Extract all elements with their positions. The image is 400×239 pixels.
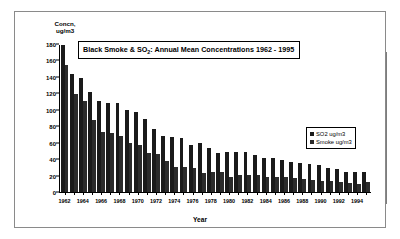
bar-group [252, 45, 261, 192]
legend-item: SO2 ug/m3 [310, 130, 352, 138]
x-axis-tick-label: 1982 [241, 198, 253, 204]
x-axis-tick-mark [183, 192, 184, 195]
bar-smoke [366, 182, 370, 192]
y-axis-tick-mark [56, 126, 59, 127]
x-axis-tick-mark [110, 192, 111, 195]
y-axis-tick-mark [56, 44, 59, 45]
x-axis-tick-mark [302, 192, 303, 195]
y-axis-tick-mark [56, 159, 59, 160]
x-axis-tick-label: 1988 [296, 198, 308, 204]
bar-group [270, 45, 279, 192]
bar-group [325, 45, 334, 192]
bar-smoke [138, 145, 142, 192]
bar-smoke [348, 183, 352, 192]
x-axis-tick-label: 1974 [168, 198, 180, 204]
bar-smoke [83, 101, 87, 192]
y-axis-title: Concn, ug/m3 [35, 20, 95, 35]
x-axis-tick-mark [92, 192, 93, 195]
bar-group: 1984 [261, 45, 270, 192]
bar-group: 1978 [206, 45, 215, 192]
bar-smoke [156, 154, 160, 192]
x-axis-tick-mark [165, 192, 166, 195]
x-axis-line [59, 192, 371, 193]
bar-smoke [339, 182, 343, 192]
bar-smoke [92, 120, 96, 192]
bar-smoke [238, 175, 242, 192]
x-axis-tick-label: 1986 [278, 198, 290, 204]
bar-group: 1968 [115, 45, 124, 192]
bar-smoke [110, 133, 114, 192]
bar-smoke [321, 181, 325, 192]
chart-title-prefix: Black Smoke & SO [83, 45, 147, 54]
bar-smoke [302, 179, 306, 192]
bar-group: 1962 [60, 45, 69, 192]
bar-group [197, 45, 206, 192]
x-axis-tick-mark [229, 192, 230, 195]
x-axis-tick-mark [220, 192, 221, 195]
y-axis-tick-mark [56, 76, 59, 77]
plot-area: 020406080100120140160180 196219641966196… [59, 45, 371, 193]
bar-smoke [220, 172, 224, 192]
legend-item: Smoke ug/m3 [310, 138, 352, 146]
x-axis-tick-label: 1962 [59, 198, 71, 204]
x-axis-tick-label: 1978 [205, 198, 217, 204]
bar-smoke [165, 161, 169, 192]
bar-group [161, 45, 170, 192]
chart-title-suffix: : Annual Mean Concentrations 1962 - 1995 [150, 45, 294, 54]
bar-group [142, 45, 151, 192]
bar-smoke [74, 94, 78, 192]
bar-group: 1994 [353, 45, 362, 192]
x-axis-tick-mark [366, 192, 367, 195]
bar-smoke [174, 167, 178, 192]
bar-group: 1990 [316, 45, 325, 192]
bar-smoke [311, 180, 315, 192]
bar-group: 1982 [243, 45, 252, 192]
bar-group: 1964 [78, 45, 87, 192]
bar-smoke [65, 65, 69, 192]
x-axis-tick-mark [238, 192, 239, 195]
bar-smoke [330, 181, 334, 192]
bar-group: 1988 [298, 45, 307, 192]
bar-group: 1980 [225, 45, 234, 192]
bar-smoke [129, 143, 133, 192]
x-axis-tick-mark [275, 192, 276, 195]
x-axis-tick-mark [330, 192, 331, 195]
bar-smoke [293, 178, 297, 192]
x-axis-tick-label: 1980 [223, 198, 235, 204]
bar-group: 1992 [334, 45, 343, 192]
x-axis-tick-mark [257, 192, 258, 195]
x-axis-tick-mark [357, 192, 358, 195]
title-leader-line [386, 52, 387, 204]
x-axis-tick-mark [321, 192, 322, 195]
bar-group [343, 45, 352, 192]
bar-group [124, 45, 133, 192]
y-axis-tick-mark [56, 60, 59, 61]
x-axis-tick-mark [101, 192, 102, 195]
x-axis-tick-label: 1972 [150, 198, 162, 204]
chart-figure: Concn, ug/m3 Black Smoke & SO2: Annual M… [14, 11, 386, 228]
bar-group [69, 45, 78, 192]
bar-group: 1986 [279, 45, 288, 192]
y-axis-tick-mark [56, 93, 59, 94]
bar-smoke [266, 177, 270, 192]
y-axis-tick-mark [56, 142, 59, 143]
chart-title: Black Smoke & SO2: Annual Mean Concentra… [78, 41, 300, 59]
x-axis-tick-label: 1984 [260, 198, 272, 204]
bar-group: 1974 [170, 45, 179, 192]
x-axis-tick-label: 1964 [77, 198, 89, 204]
x-axis-tick-mark [348, 192, 349, 195]
bar-group: 1966 [97, 45, 106, 192]
bar-group [106, 45, 115, 192]
bar-group: 1970 [133, 45, 142, 192]
bar-group [215, 45, 224, 192]
bar-group [307, 45, 316, 192]
x-axis-tick-mark [83, 192, 84, 195]
x-axis-tick-mark [119, 192, 120, 195]
x-axis-tick-label: 1990 [315, 198, 327, 204]
x-axis-tick-mark [247, 192, 248, 195]
bar-group [234, 45, 243, 192]
x-axis-tick-label: 1976 [187, 198, 199, 204]
bar-smoke [257, 175, 261, 192]
x-axis-tick-mark [293, 192, 294, 195]
x-axis-tick-mark [193, 192, 194, 195]
